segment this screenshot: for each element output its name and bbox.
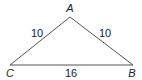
side-cb-length: 16 bbox=[65, 67, 77, 79]
vertex-a-label: A bbox=[65, 2, 73, 14]
side-ab-length: 10 bbox=[99, 27, 111, 39]
vertex-c-label: C bbox=[6, 67, 14, 79]
triangle-diagram: A C B 10 10 16 bbox=[0, 0, 142, 80]
vertex-b-label: B bbox=[128, 67, 135, 79]
triangle-abc bbox=[10, 17, 133, 65]
side-ca-length: 10 bbox=[31, 27, 43, 39]
